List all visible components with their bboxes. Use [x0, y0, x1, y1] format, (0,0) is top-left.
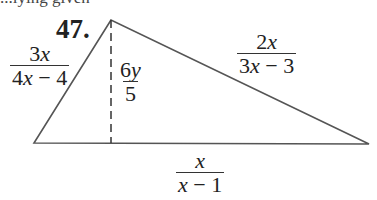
- right-side-label: 2x 3x − 3: [237, 30, 296, 77]
- right-side-numerator: 2x: [254, 30, 279, 53]
- right-side-denominator: 3x − 3: [237, 53, 296, 77]
- left-side-label: 3x 4x − 4: [10, 42, 69, 89]
- altitude-numerator: 6y: [118, 58, 143, 81]
- base-numerator: x: [193, 149, 207, 172]
- left-side-numerator: 3x: [27, 42, 52, 65]
- altitude-denominator: 5: [123, 81, 138, 105]
- left-side-denominator: 4x − 4: [10, 65, 69, 89]
- base-denominator: x − 1: [176, 172, 224, 196]
- problem-number: 47.: [56, 14, 90, 45]
- altitude-label: 6y 5: [118, 58, 143, 105]
- base-label: x x − 1: [176, 149, 224, 196]
